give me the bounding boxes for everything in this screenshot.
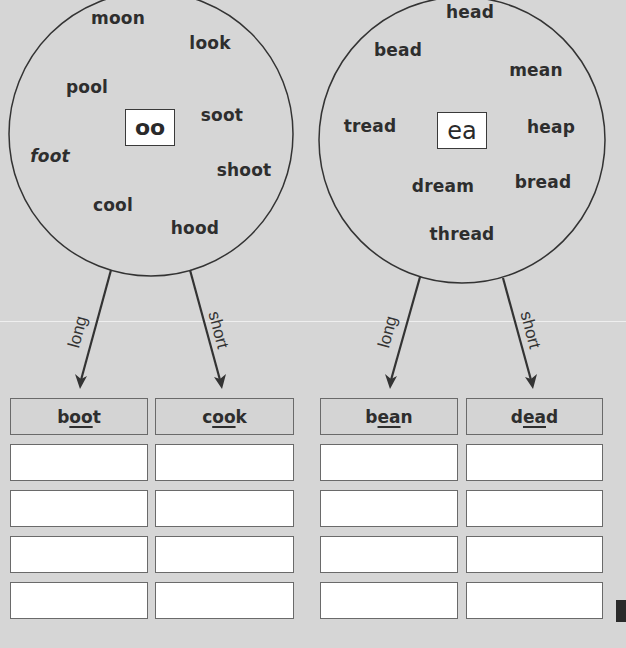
header-boot-focus: oo <box>69 407 92 427</box>
header-boot-pre: b <box>57 407 69 427</box>
header-bean: bean <box>320 398 458 435</box>
header-cook: cook <box>155 398 294 435</box>
cook-answer-1[interactable] <box>155 444 294 481</box>
word-head[interactable]: head <box>446 2 494 22</box>
header-cook-post: k <box>236 407 247 427</box>
bean-answer-4[interactable] <box>320 582 458 619</box>
boot-answer-1[interactable] <box>10 444 148 481</box>
cook-answer-2[interactable] <box>155 490 294 527</box>
word-heap[interactable]: heap <box>527 117 575 137</box>
bean-answer-3[interactable] <box>320 536 458 573</box>
word-bead[interactable]: bead <box>374 40 422 60</box>
header-boot: boot <box>10 398 148 435</box>
grapheme-box-ea: ea <box>437 112 487 149</box>
phonics-sorting-worksheet: moon look pool soot foot shoot cool hood… <box>0 0 626 648</box>
word-bread[interactable]: bread <box>515 172 572 192</box>
dead-answer-2[interactable] <box>466 490 603 527</box>
dead-answer-3[interactable] <box>466 536 603 573</box>
grapheme-box-oo: oo <box>125 109 175 146</box>
page-edge-marker <box>616 600 626 622</box>
word-moon[interactable]: moon <box>91 8 145 28</box>
boot-answer-3[interactable] <box>10 536 148 573</box>
boot-answer-4[interactable] <box>10 582 148 619</box>
cook-answer-3[interactable] <box>155 536 294 573</box>
word-cool[interactable]: cool <box>93 195 133 215</box>
header-dead: dead <box>466 398 603 435</box>
header-bean-focus: ea <box>378 407 401 427</box>
word-look[interactable]: look <box>189 33 230 53</box>
header-boot-post: t <box>93 407 101 427</box>
word-foot[interactable]: foot <box>30 146 70 166</box>
word-dream[interactable]: dream <box>412 176 474 196</box>
word-hood[interactable]: hood <box>171 218 219 238</box>
cook-answer-4[interactable] <box>155 582 294 619</box>
word-thread[interactable]: thread <box>430 224 495 244</box>
dead-answer-4[interactable] <box>466 582 603 619</box>
word-soot[interactable]: soot <box>201 105 243 125</box>
bean-answer-1[interactable] <box>320 444 458 481</box>
word-mean[interactable]: mean <box>509 60 563 80</box>
header-dead-pre: d <box>511 407 523 427</box>
header-dead-focus: ea <box>523 407 546 427</box>
header-dead-post: d <box>546 407 558 427</box>
header-cook-pre: c <box>202 407 212 427</box>
header-bean-pre: b <box>365 407 377 427</box>
word-pool[interactable]: pool <box>66 77 108 97</box>
word-shoot[interactable]: shoot <box>217 160 272 180</box>
word-tread[interactable]: tread <box>344 116 397 136</box>
header-cook-focus: oo <box>212 407 235 427</box>
dead-answer-1[interactable] <box>466 444 603 481</box>
boot-answer-2[interactable] <box>10 490 148 527</box>
bean-answer-2[interactable] <box>320 490 458 527</box>
header-bean-post: n <box>401 407 413 427</box>
